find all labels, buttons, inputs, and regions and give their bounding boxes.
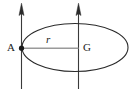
geometry-figure: A r G bbox=[0, 0, 136, 92]
left-up-arrow-head bbox=[19, 3, 24, 15]
point-a-dot bbox=[19, 46, 24, 51]
point-a-label: A bbox=[7, 42, 15, 53]
right-up-arrow-head bbox=[76, 3, 81, 15]
radius-label: r bbox=[46, 34, 50, 45]
figure-canvas bbox=[0, 0, 136, 92]
point-g-label: G bbox=[83, 42, 91, 53]
